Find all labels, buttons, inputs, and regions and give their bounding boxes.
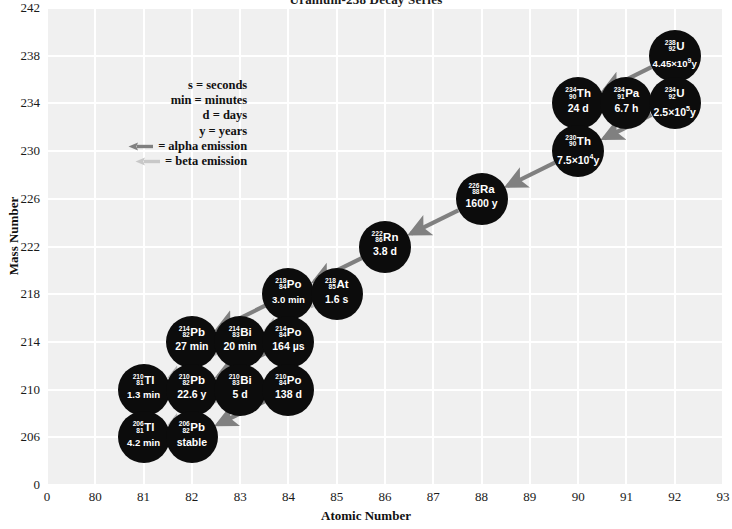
nuclide-node-pb214[interactable]: 21482Pb27 min: [166, 316, 218, 368]
nuclide-node-ra226[interactable]: 22688Ra1600 y: [456, 173, 508, 225]
nuclide-mass-atomic: 21885: [325, 278, 336, 291]
x-tick-90: 90: [572, 489, 585, 505]
nuclide-halflife: 20 min: [214, 341, 266, 352]
nuclide-isotope-label: 21482Pb: [166, 326, 218, 339]
x-tick-0: 0: [44, 489, 51, 505]
nuclide-symbol: Pb: [190, 373, 205, 385]
nuclide-node-pa234[interactable]: 23491Pa6.7 h: [600, 77, 652, 129]
nuclide-halflife: 27 min: [166, 341, 218, 352]
nuclide-mass-atomic: 22286: [372, 231, 383, 244]
x-tick-89: 89: [523, 489, 536, 505]
nuclide-node-bi210[interactable]: 21083Bi5 d: [214, 364, 266, 416]
nuclide-isotope-label: 21083Bi: [214, 374, 266, 387]
nuclide-mass-atomic: 21084: [275, 374, 286, 387]
nuclide-node-u238[interactable]: 23892U4.45×109y: [649, 30, 701, 82]
nuclide-symbol: Th: [577, 135, 591, 147]
nuclide-isotope-label: 22688Ra: [456, 183, 508, 196]
nuclide-symbol: Po: [287, 278, 302, 290]
nuclide-mass-atomic: 23090: [565, 135, 576, 148]
nuclide-node-pb210[interactable]: 21082Pb22.6 y: [166, 364, 218, 416]
nuclide-node-at218[interactable]: 21885At1.6 s: [311, 268, 363, 320]
nuclide-node-pb206[interactable]: 20682Pbstable: [166, 411, 218, 463]
nuclide-node-th234[interactable]: 23490Th24 d: [552, 77, 604, 129]
nuclide-symbol: Pa: [625, 87, 639, 99]
nuclide-symbol: Po: [287, 326, 302, 338]
nuclide-halflife: 1600 y: [456, 198, 508, 209]
x-tick-91: 91: [620, 489, 633, 505]
nuclide-isotope-label: 20681Tl: [118, 421, 170, 434]
nuclide-isotope-label: 21082Pb: [166, 374, 218, 387]
nuclide-mass-atomic: 21083: [229, 374, 240, 387]
nuclide-mass-atomic: 22688: [468, 183, 479, 196]
nuclide-mass-atomic: 21484: [275, 326, 286, 339]
nuclide-mass-atomic: 21884: [275, 278, 286, 291]
nuclide-halflife: 164 µs: [262, 341, 314, 352]
nuclide-symbol: Tl: [144, 373, 154, 385]
x-tick-92: 92: [668, 489, 681, 505]
x-tick-88: 88: [475, 489, 488, 505]
nuclide-node-tl210[interactable]: 21081Tl1.3 min: [118, 364, 170, 416]
nuclide-symbol: U: [676, 39, 684, 51]
nuclide-mass-atomic: 23492: [665, 87, 676, 100]
nuclide-mass-atomic: 23490: [565, 87, 576, 100]
nuclide-halflife: stable: [166, 437, 218, 448]
nuclide-isotope-label: 21084Po: [262, 374, 314, 387]
nuclide-symbol: Th: [577, 87, 591, 99]
nuclide-symbol: U: [676, 87, 684, 99]
nuclide-isotope-label: 22286Rn: [359, 231, 411, 244]
nuclide-isotope-label: 21885At: [311, 278, 363, 291]
nuclide-node-bi214[interactable]: 21483Bi20 min: [214, 316, 266, 368]
nuclide-halflife: 3.8 d: [359, 246, 411, 257]
nuclide-halflife: 4.2 min: [118, 437, 170, 448]
nuclide-halflife: 1.3 min: [118, 389, 170, 400]
nuclide-halflife: 5 d: [214, 389, 266, 400]
x-tick-80: 80: [89, 489, 102, 505]
nuclide-mass-atomic: 21482: [179, 326, 190, 339]
nuclide-halflife: 3.0 min: [262, 294, 314, 305]
nuclide-node-po218[interactable]: 21884Po3.0 min: [262, 268, 314, 320]
nuclide-isotope-label: 23490Th: [552, 87, 604, 100]
x-tick-84: 84: [282, 489, 295, 505]
nuclide-isotope-label: 21884Po: [262, 278, 314, 291]
nuclide-isotope-label: 21081Tl: [118, 374, 170, 387]
nuclide-mass-atomic: 20682: [179, 421, 190, 434]
nuclide-isotope-label: 23492U: [649, 87, 701, 100]
nuclide-mass-atomic: 23491: [614, 87, 625, 100]
y-axis-title: Mass Number: [6, 166, 22, 306]
nuclide-halflife: 7.5×104y: [552, 151, 604, 166]
nuclide-halflife: 24 d: [552, 103, 604, 114]
nuclide-node-u234[interactable]: 23492U2.5×105y: [649, 77, 701, 129]
x-tick-86: 86: [379, 489, 392, 505]
nuclide-node-rn222[interactable]: 22286Rn3.8 d: [359, 221, 411, 273]
nuclide-symbol: At: [336, 278, 348, 290]
x-axis-title: Atomic Number: [0, 508, 732, 524]
nuclide-symbol: Po: [287, 373, 302, 385]
nuclide-halflife: 1.6 s: [311, 294, 363, 305]
nuclide-node-th230[interactable]: 23090Th7.5×104y: [552, 125, 604, 177]
nuclide-isotope-label: 23892U: [649, 40, 701, 53]
nuclide-halflife: 22.6 y: [166, 389, 218, 400]
nuclide-mass-atomic: 21483: [229, 326, 240, 339]
nuclide-mass-atomic: 23892: [665, 40, 676, 53]
x-tick-82: 82: [185, 489, 198, 505]
x-tick-87: 87: [427, 489, 440, 505]
nuclide-symbol: Pb: [190, 421, 205, 433]
nuclide-isotope-label: 21483Bi: [214, 326, 266, 339]
nuclide-isotope-label: 20682Pb: [166, 421, 218, 434]
nuclide-halflife: 6.7 h: [600, 103, 652, 114]
nuclide-halflife: 4.45×109y: [649, 55, 701, 69]
nuclide-isotope-label: 21484Po: [262, 326, 314, 339]
nuclide-halflife: 2.5×105y: [649, 103, 701, 118]
x-tick-85: 85: [330, 489, 343, 505]
nuclide-node-tl206[interactable]: 20681Tl4.2 min: [118, 411, 170, 463]
decay-series-chart: Uranium-238 Decay Series 23892U4.45×109y…: [0, 0, 732, 529]
nuclide-node-po214[interactable]: 21484Po164 µs: [262, 316, 314, 368]
nuclide-halflife: 138 d: [262, 389, 314, 400]
nuclide-mass-atomic: 21082: [179, 374, 190, 387]
nuclide-symbol: Tl: [144, 421, 154, 433]
x-tick-81: 81: [137, 489, 150, 505]
nuclide-isotope-label: 23491Pa: [600, 87, 652, 100]
nuclide-symbol: Pb: [190, 326, 205, 338]
nuclide-node-po210[interactable]: 21084Po138 d: [262, 364, 314, 416]
nuclide-mass-atomic: 21081: [133, 374, 144, 387]
